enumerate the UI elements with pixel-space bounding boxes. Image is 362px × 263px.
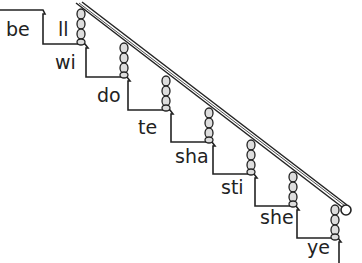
syllable-label: sha — [175, 147, 209, 166]
baluster — [120, 43, 128, 78]
syllable-label: sti — [221, 178, 244, 197]
baluster — [162, 76, 170, 111]
syllable-label: wi — [55, 53, 76, 72]
syllable-label: she — [260, 208, 294, 227]
baluster — [77, 9, 85, 45]
syllable-label: ll — [58, 20, 69, 39]
baluster — [331, 205, 339, 240]
syllable-label: do — [97, 86, 121, 105]
baluster — [289, 172, 297, 207]
syllable-label: ye — [307, 238, 330, 257]
baluster — [247, 140, 255, 175]
syllable-label: te — [138, 118, 157, 137]
baluster — [205, 108, 213, 143]
staircase-drawing — [0, 0, 362, 263]
syllable-label: be — [6, 20, 30, 39]
